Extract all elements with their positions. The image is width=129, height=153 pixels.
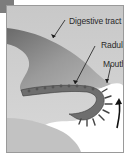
label-radula: Radula [101,40,124,50]
diagram-frame: Digestive tract Radula Mouth [6,5,124,153]
radula-illustration [7,6,123,152]
label-digestive-tract: Digestive tract [69,16,121,26]
label-mouth: Mouth [103,59,124,69]
